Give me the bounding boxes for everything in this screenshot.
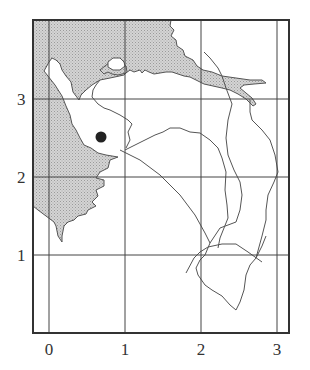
location-marker — [96, 132, 107, 143]
map-figure: 0 1 2 3 1 2 3 — [0, 0, 310, 370]
river-east — [250, 100, 278, 258]
y-tick-2: 2 — [17, 169, 26, 186]
inlet-island — [108, 58, 125, 70]
sea-region — [33, 20, 266, 242]
river-southwest — [120, 150, 210, 243]
y-tick-1: 1 — [17, 247, 26, 264]
x-tick-2: 2 — [197, 341, 206, 358]
y-tick-3: 3 — [17, 91, 26, 108]
x-tick-1: 1 — [121, 341, 130, 358]
road-south — [186, 244, 262, 273]
x-tick-3: 3 — [273, 341, 282, 358]
river-west — [125, 128, 228, 248]
x-tick-0: 0 — [45, 341, 54, 358]
